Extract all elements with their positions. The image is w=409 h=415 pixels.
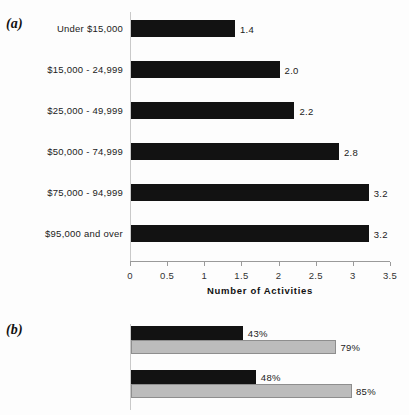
bar-value-label: 3.2 [374,187,388,198]
bar-dark: 43% [131,326,243,340]
x-tick-a [130,262,131,266]
x-tick-label-a: 0.5 [160,270,174,281]
x-tick-label-a: 0 [127,270,133,281]
bar: 2.0 [131,61,280,78]
bar: 3.2 [131,225,369,242]
x-tick-label-a: 2 [276,270,282,281]
chart-row: Vote 200048%85% [130,370,390,398]
bar-value-label: 43% [248,328,268,339]
chart-row: Vote 199643%79% [130,326,390,354]
value-axis-a [130,261,390,262]
bar-value-label: 2.0 [285,64,299,75]
x-tick-a [390,262,391,266]
bar-value-label: 85% [356,386,376,397]
category-label: $25,000 - 49,999 [47,102,123,119]
bar-value-label: 2.2 [299,105,313,116]
plot-area-a: 00.511.522.533.5Under $15,0001.4$15,000 … [130,12,390,262]
x-tick-label-a: 3.5 [383,270,397,281]
category-label: $15,000 - 24,999 [47,61,123,78]
bar-light: 85% [131,384,352,398]
chart-row: Under $15,0001.4 [130,20,390,37]
bar-value-label: 1.4 [240,23,254,34]
bar: 3.2 [131,184,369,201]
bar-value-label: 79% [340,342,360,353]
category-label: $75,000 - 94,999 [47,184,123,201]
bar-value-label: 48% [261,372,281,383]
bar: 1.4 [131,20,235,37]
x-axis-title-a: Number of Activities [130,285,390,296]
x-tick-a [279,262,280,266]
x-tick-a [316,262,317,266]
x-tick-a [167,262,168,266]
figure-canvas: (a) 00.511.522.533.5Under $15,0001.4$15,… [0,0,409,415]
chart-row: $95,000 and over3.2 [130,225,390,242]
x-tick-label-a: 1.5 [234,270,248,281]
x-tick-a [241,262,242,266]
x-tick-a [204,262,205,266]
chart-row: $75,000 - 94,9993.2 [130,184,390,201]
bar-value-label: 3.2 [374,228,388,239]
x-tick-label-a: 1 [201,270,207,281]
chart-panel-a: 00.511.522.533.5Under $15,0001.4$15,000 … [0,0,409,300]
x-tick-label-a: 3 [350,270,356,281]
bar: 2.2 [131,102,294,119]
category-label: $50,000 - 74,999 [47,143,123,160]
plot-area-b: Vote 199643%79%Vote 200048%85%3% [130,324,390,410]
chart-panel-b: Vote 199643%79%Vote 200048%85%3% [0,300,409,415]
bar: 2.8 [131,143,339,160]
chart-row: $25,000 - 49,9992.2 [130,102,390,119]
category-label: Under $15,000 [57,20,123,37]
x-tick-label-a: 2.5 [309,270,323,281]
chart-row: $15,000 - 24,9992.0 [130,61,390,78]
bar-value-label: 2.8 [344,146,358,157]
x-tick-a [353,262,354,266]
chart-row: $50,000 - 74,9992.8 [130,143,390,160]
category-label: $95,000 and over [45,225,123,242]
bar-light: 79% [131,340,336,354]
bar-dark: 48% [131,370,256,384]
